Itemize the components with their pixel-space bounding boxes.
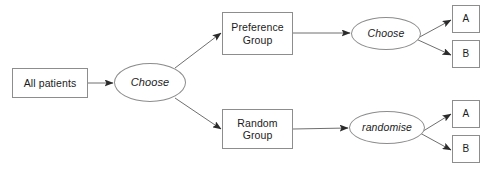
edge-choose-to-preference-group — [175, 33, 221, 68]
edge-choose-top-to-outcome-b — [416, 39, 451, 55]
edge-choose-to-random-group — [175, 98, 221, 129]
node-outcome-bottom-b-label: B — [463, 143, 470, 155]
node-choose-top-label: Choose — [368, 27, 405, 39]
edge-random-group-to-randomise — [293, 128, 348, 129]
node-outcome-top-b-label: B — [463, 48, 470, 60]
edge-randomise-to-outcome-b — [420, 133, 451, 150]
node-random-group-label: Random Group — [237, 117, 277, 142]
node-outcome-top-b[interactable]: B — [452, 40, 480, 68]
node-choose-main[interactable]: Choose — [114, 63, 186, 102]
node-randomise[interactable]: randomise — [349, 111, 425, 144]
node-outcome-bottom-a-label: A — [463, 108, 470, 120]
node-outcome-bottom-a[interactable]: A — [452, 100, 480, 128]
node-outcome-top-a[interactable]: A — [452, 5, 480, 33]
node-outcome-bottom-b[interactable]: B — [452, 135, 480, 163]
node-random-group[interactable]: Random Group — [222, 109, 293, 149]
flowchart-diagram: All patients Choose Preference Group Ran… — [0, 0, 495, 172]
node-all-patients-label: All patients — [24, 77, 77, 89]
edge-randomise-to-outcome-a — [420, 114, 451, 133]
node-all-patients[interactable]: All patients — [12, 68, 88, 98]
edge-choose-top-to-outcome-a — [416, 20, 451, 39]
node-outcome-top-a-label: A — [463, 13, 470, 25]
node-choose-top[interactable]: Choose — [351, 17, 421, 50]
node-choose-main-label: Choose — [131, 76, 170, 89]
node-preference-group-label: Preference Group — [231, 21, 283, 46]
node-preference-group[interactable]: Preference Group — [222, 12, 293, 55]
node-randomise-label: randomise — [362, 121, 412, 133]
